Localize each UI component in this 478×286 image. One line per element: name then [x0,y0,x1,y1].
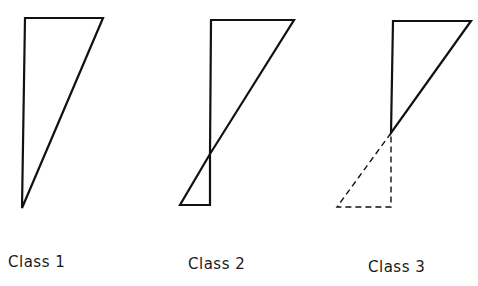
class-1-triangle [22,18,103,208]
class-3-label: Class 3 [368,258,425,276]
class-3-dashed-lower-triangle [337,133,391,207]
class-3-panel: Class 3 [337,21,471,276]
class-3-upper-triangle [391,21,471,133]
class-2-label: Class 2 [188,255,245,273]
class-1-panel: Class 1 [8,18,103,271]
class-diagram: Class 1 Class 2 Class 3 [0,0,478,286]
class-1-label: Class 1 [8,253,65,271]
class-2-lower-triangle [180,154,210,205]
class-2-panel: Class 2 [180,20,294,273]
class-2-upper-triangle [210,20,294,154]
